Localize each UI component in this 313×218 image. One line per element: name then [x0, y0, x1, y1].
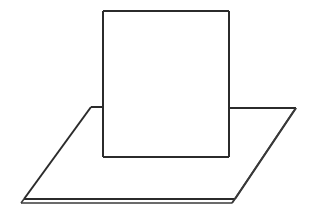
panel-face	[103, 11, 229, 157]
vertical-panel-group	[103, 11, 229, 157]
line-drawing-svg	[0, 0, 313, 218]
drawing-canvas	[0, 0, 313, 218]
